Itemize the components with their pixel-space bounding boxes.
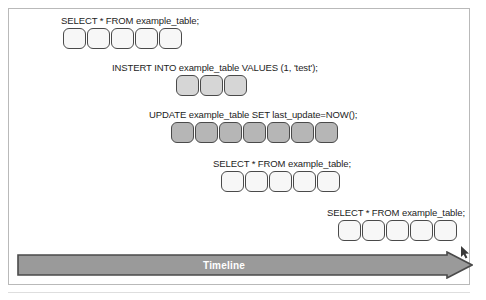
query-block bbox=[410, 220, 433, 241]
query-block bbox=[269, 171, 292, 192]
query-block bbox=[111, 28, 134, 49]
query-blocks-1 bbox=[63, 28, 182, 49]
query-label-5: SELECT * FROM example_table; bbox=[327, 207, 465, 218]
figure-frame: SELECT * FROM example_table; INSTERT INT… bbox=[8, 8, 470, 285]
query-block bbox=[243, 122, 266, 143]
query-block bbox=[135, 28, 158, 49]
query-label-1: SELECT * FROM example_table; bbox=[61, 15, 199, 26]
query-label-4: SELECT * FROM example_table; bbox=[213, 158, 351, 169]
query-blocks-3 bbox=[171, 122, 338, 143]
query-block bbox=[362, 220, 385, 241]
query-block bbox=[195, 122, 218, 143]
query-block bbox=[267, 122, 290, 143]
query-block bbox=[338, 220, 361, 241]
query-block bbox=[176, 75, 199, 96]
query-block bbox=[200, 75, 223, 96]
query-block bbox=[224, 75, 247, 96]
query-block bbox=[171, 122, 194, 143]
page-bottom-edge bbox=[8, 292, 470, 293]
query-blocks-5 bbox=[338, 220, 457, 241]
query-block bbox=[245, 171, 268, 192]
query-blocks-4 bbox=[221, 171, 340, 192]
query-block bbox=[315, 122, 338, 143]
query-block bbox=[434, 220, 457, 241]
query-block bbox=[317, 171, 340, 192]
query-block bbox=[386, 220, 409, 241]
timeline-arrow bbox=[17, 251, 473, 279]
query-label-3: UPDATE example_table SET last_update=NOW… bbox=[149, 109, 357, 120]
query-blocks-2 bbox=[176, 75, 247, 96]
query-block bbox=[293, 171, 316, 192]
query-block bbox=[219, 122, 242, 143]
query-block bbox=[87, 28, 110, 49]
query-label-2: INSTERT INTO example_table VALUES (1, 't… bbox=[112, 62, 318, 73]
query-block bbox=[63, 28, 86, 49]
query-block bbox=[221, 171, 244, 192]
query-block bbox=[159, 28, 182, 49]
query-block bbox=[291, 122, 314, 143]
